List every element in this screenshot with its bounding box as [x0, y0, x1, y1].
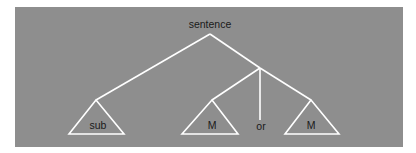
leaf-label-m1: M — [208, 119, 217, 131]
leaf-label-sub: sub — [90, 119, 107, 131]
branch-root-sub — [96, 34, 210, 100]
leaf-label-or: or — [256, 120, 265, 132]
leaf-label-m2: M — [307, 119, 316, 131]
branch-root-node — [210, 34, 260, 68]
root-label: sentence — [189, 18, 232, 30]
branch-node-m1 — [212, 68, 260, 100]
branch-node-m2 — [260, 68, 311, 100]
